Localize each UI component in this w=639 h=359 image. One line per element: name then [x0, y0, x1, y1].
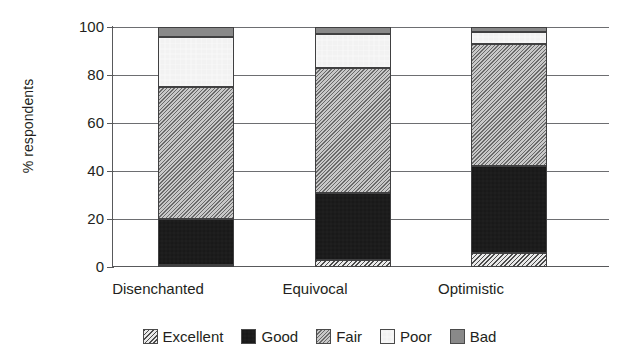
bar-segment-good-disenchanted: [158, 219, 234, 265]
legend-item-fair: Fair: [316, 329, 362, 344]
bar-segment-bad-equivocal: [315, 27, 391, 34]
x-category-label-optimistic: Optimistic: [381, 280, 561, 297]
y-tick-label: 20: [60, 211, 104, 226]
bar-segment-fair-disenchanted: [158, 87, 234, 219]
tick-mark: [107, 219, 114, 220]
bar-segment-excellent-disenchanted: [158, 265, 234, 267]
bar-segment-fair-equivocal: [315, 68, 391, 193]
bar-segment-poor-disenchanted: [158, 37, 234, 87]
bar-segment-bad-disenchanted: [158, 27, 234, 37]
legend-label: Fair: [336, 329, 362, 344]
legend-item-good: Good: [241, 329, 298, 344]
legend-label: Excellent: [163, 329, 224, 344]
legend-item-poor: Poor: [380, 329, 432, 344]
tick-mark: [107, 171, 114, 172]
chart-legend: Excellent Good Fair Poor Bad: [0, 329, 639, 344]
legend-label: Bad: [470, 329, 497, 344]
tick-mark: [107, 123, 114, 124]
good-swatch-icon: [241, 329, 256, 344]
excellent-swatch-icon: [143, 329, 158, 344]
tick-mark: [107, 75, 114, 76]
plot-area: 100 80 60 40 20 0: [113, 27, 609, 267]
y-axis-label: % respondents: [20, 26, 36, 226]
bar-segment-good-equivocal: [315, 193, 391, 260]
y-tick-label: 0: [60, 259, 104, 274]
bar-segment-fair-optimistic: [471, 44, 547, 166]
fair-swatch-icon: [316, 329, 331, 344]
y-tick-label: 60: [60, 115, 104, 130]
x-category-label-equivocal: Equivocal: [225, 280, 405, 297]
bar-segment-excellent-equivocal: [315, 260, 391, 267]
bad-swatch-icon: [450, 329, 465, 344]
y-tick-label: 100: [60, 19, 104, 34]
bar-segment-poor-equivocal: [315, 34, 391, 68]
poor-swatch-icon: [380, 329, 395, 344]
legend-item-excellent: Excellent: [143, 329, 224, 344]
legend-label: Poor: [400, 329, 432, 344]
y-tick-label: 40: [60, 163, 104, 178]
legend-label: Good: [261, 329, 298, 344]
stacked-bar-chart: % respondents 100 80 60 40 20: [0, 0, 639, 359]
tick-mark: [107, 27, 114, 28]
bar-segment-excellent-optimistic: [471, 253, 547, 267]
legend-item-bad: Bad: [450, 329, 497, 344]
x-category-label-disenchanted: Disenchanted: [68, 280, 248, 297]
bar-segment-good-optimistic: [471, 166, 547, 252]
y-tick-label: 80: [60, 67, 104, 82]
bar-segment-bad-optimistic: [471, 27, 547, 32]
tick-mark: [107, 267, 114, 268]
bar-segment-poor-optimistic: [471, 32, 547, 44]
